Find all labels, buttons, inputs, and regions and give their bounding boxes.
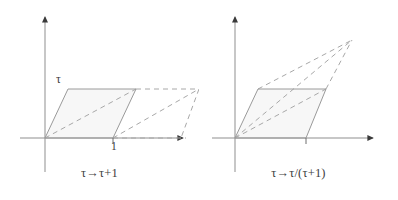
dashed-edge-upper-right-to-apex	[326, 40, 352, 89]
panel-tau-over-tau-plus-one: τ 1 τ→τ/(τ+1)	[199, 0, 398, 200]
dashed-edge-upper-left-to-apex	[258, 40, 352, 89]
fundamental-parallelogram-fill	[45, 89, 136, 138]
panel-tau-plus-one: τ 1 τ→τ+1	[0, 0, 199, 200]
caption-tau-plus-one: τ→τ+1	[0, 166, 199, 181]
dashed-right-slant-edge	[181, 89, 199, 138]
x-tick-label-one: 1	[111, 140, 117, 152]
figure-root: τ 1 τ→τ+1	[0, 0, 398, 200]
tau-axis-label: τ	[56, 72, 61, 87]
caption-tau-over-tau-plus-one: τ→τ/(τ+1)	[199, 166, 398, 181]
fundamental-parallelogram-fill	[235, 89, 326, 138]
